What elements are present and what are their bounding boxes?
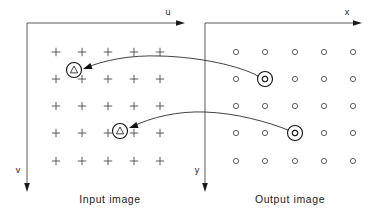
output-pixel-lower-circle-icon — [292, 130, 298, 136]
output-pixel-marker — [262, 158, 267, 163]
output-vertical-axis-label: y — [195, 165, 200, 175]
inverse-mapped-sample-lower-ring — [113, 124, 128, 139]
input-sample-marker — [104, 75, 112, 83]
output-pixel-marker — [262, 103, 267, 108]
mapping-arrow-lower-curve — [131, 112, 288, 130]
mapping-arrow-upper — [83, 56, 258, 76]
input-sample-marker — [52, 75, 60, 83]
output-pixel-marker — [350, 76, 355, 81]
output-pixel-marker — [233, 130, 238, 135]
input-vertical-axis-label: v — [16, 165, 21, 175]
output-pixel-marker — [233, 158, 238, 163]
output-pixel-marker — [292, 76, 297, 81]
output-horizontal-axis-label: x — [345, 7, 350, 17]
output-pixel-marker — [262, 49, 267, 54]
input-horizontal-axis-label: u — [165, 7, 170, 17]
output-pixel-marker — [262, 130, 267, 135]
mapping-arrow-lower-arrowhead — [129, 122, 139, 128]
input-sample-marker — [104, 157, 112, 165]
input-sample-marker — [156, 129, 164, 137]
figure-canvas: uvInput imagexyOutput image — [0, 0, 378, 215]
output-pixel-upper — [258, 72, 273, 87]
output-pixel-marker — [350, 158, 355, 163]
output-pixel-upper-ring — [258, 72, 273, 87]
input-horizontal-axis-arrowhead — [176, 20, 185, 26]
input-sample-marker — [130, 75, 138, 83]
output-pixel-marker — [292, 103, 297, 108]
output-pixel-lower — [288, 126, 303, 141]
output-pixel-marker — [233, 76, 238, 81]
output-pixel-upper-circle-icon — [262, 76, 268, 82]
input-sample-marker — [78, 102, 86, 110]
input-sample-marker — [52, 129, 60, 137]
panel-output: xyOutput image — [195, 7, 362, 205]
mapping-arrow-lower — [129, 112, 288, 130]
input-sample-marker — [130, 102, 138, 110]
input-sample-marker — [130, 129, 138, 137]
output-pixel-marker — [292, 158, 297, 163]
output-sample-grid — [233, 49, 355, 163]
mapping-arrow-upper-curve — [85, 56, 258, 76]
input-sample-marker — [156, 102, 164, 110]
output-pixel-marker — [350, 130, 355, 135]
output-pixel-marker — [233, 49, 238, 54]
output-pixel-marker — [321, 49, 326, 54]
input-sample-marker — [104, 48, 112, 56]
inverse-mapped-sample-lower — [113, 124, 128, 139]
input-vertical-axis-arrowhead — [24, 183, 30, 192]
input-sample-marker — [130, 157, 138, 165]
output-caption: Output image — [255, 193, 325, 205]
input-sample-marker — [130, 48, 138, 56]
input-sample-marker — [156, 75, 164, 83]
output-pixel-marker — [292, 49, 297, 54]
inverse-mapped-sample-lower-triangle-icon — [116, 127, 123, 134]
output-pixel-marker — [321, 130, 326, 135]
input-sample-marker — [52, 48, 60, 56]
output-horizontal-axis-arrowhead — [353, 20, 362, 26]
input-sample-marker — [52, 157, 60, 165]
output-pixel-marker — [321, 158, 326, 163]
output-pixel-marker — [321, 103, 326, 108]
output-pixel-marker — [321, 76, 326, 81]
input-sample-marker — [78, 157, 86, 165]
input-caption: Input image — [79, 193, 140, 205]
output-vertical-axis-arrowhead — [202, 183, 208, 192]
inverse-mapped-sample-upper-ring — [67, 63, 82, 78]
output-pixel-marker — [233, 103, 238, 108]
input-sample-marker — [52, 102, 60, 110]
input-sample-marker — [156, 157, 164, 165]
input-sample-marker — [78, 48, 86, 56]
input-sample-marker — [156, 48, 164, 56]
output-pixel-marker — [350, 49, 355, 54]
output-pixel-lower-ring — [288, 126, 303, 141]
panel-input: uvInput image — [16, 7, 185, 205]
inverse-mapped-sample-upper-triangle-icon — [70, 66, 77, 73]
output-pixel-marker — [350, 103, 355, 108]
inverse-mapped-sample-upper — [67, 63, 82, 78]
input-sample-marker — [104, 102, 112, 110]
diagram-svg: uvInput imagexyOutput image — [0, 0, 378, 215]
input-sample-marker — [104, 129, 112, 137]
mapping-arrow-upper-arrowhead — [83, 63, 93, 69]
input-sample-marker — [78, 129, 86, 137]
